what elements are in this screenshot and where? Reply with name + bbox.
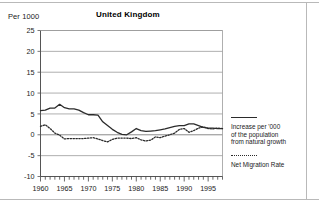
y-tick-label-0: 0 (31, 130, 35, 139)
x-tick-label-1975: 1975 (104, 184, 120, 193)
chart-legend: Increase per '000 of the population from… (231, 117, 305, 168)
y-tick-label-20: 20 (27, 47, 35, 56)
x-tick-label-1970: 1970 (80, 184, 96, 193)
line-chart-plot: -10-50510152025 196019651970197519801985… (0, 0, 319, 202)
y-tick-label-15: 15 (27, 68, 35, 77)
legend-label-natural-growth: Increase per '000 of the population from… (231, 123, 305, 146)
x-tick-label-1995: 1995 (200, 184, 216, 193)
data-series-group (41, 104, 223, 142)
y-tick-label-10: 10 (27, 89, 35, 98)
y-tick-label--10: -10 (24, 172, 34, 181)
x-tick-label-1965: 1965 (56, 184, 72, 193)
gridlines-group (41, 31, 223, 177)
y-tick-label-25: 25 (27, 26, 35, 35)
y-tick-label--5: -5 (28, 151, 34, 160)
legend-swatch-natural-growth-icon (231, 117, 257, 118)
y-axis: -10-50510152025 (24, 26, 222, 181)
legend-swatch-net-migration-icon (231, 155, 257, 156)
x-tick-label-1980: 1980 (128, 184, 144, 193)
y-tick-label-5: 5 (31, 110, 35, 119)
legend-label-net-migration: Net Migration Rate (231, 161, 305, 169)
x-tick-label-1985: 1985 (152, 184, 168, 193)
x-axis: 19601965197019751980198519901995 (33, 177, 223, 193)
x-tick-label-1960: 1960 (33, 184, 49, 193)
x-tick-label-1990: 1990 (176, 184, 192, 193)
series-line-2 (41, 125, 223, 142)
chart-figure: Per 1000 United Kingdom -10-50510152025 … (0, 0, 319, 202)
